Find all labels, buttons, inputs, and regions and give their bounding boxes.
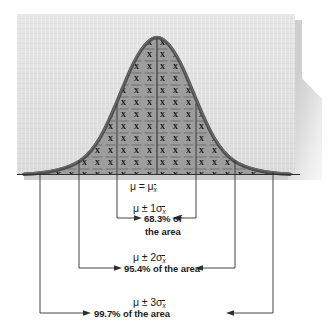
label-one-sigma-percent: 68.3% of [144, 213, 182, 224]
label-mean-text: μ = μ [130, 180, 154, 192]
label-three-sigma-percent: 99.7% of the area [94, 308, 170, 319]
figure-canvas: x [0, 0, 327, 335]
label-two-sigma-text: μ ± 2σ [133, 251, 162, 263]
label-mean-subscript: x [154, 185, 157, 193]
label-layer: μ = μx μ ± 1σx 68.3% of the area μ ± 2σx… [0, 0, 327, 335]
label-mean: μ = μx [130, 180, 157, 193]
label-one-sigma-percent-line2: the area [145, 226, 181, 237]
label-three-sigma-text: μ ± 3σ [133, 296, 162, 308]
label-two-sigma-percent: 95.4% of the area [124, 263, 200, 274]
